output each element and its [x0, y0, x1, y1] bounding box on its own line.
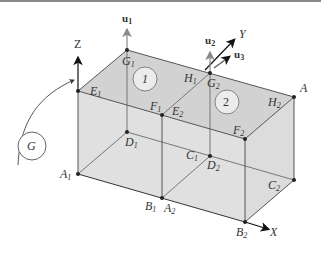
x-axis-label: X — [269, 225, 278, 239]
u1-label: u1 — [122, 12, 132, 26]
x-axis — [245, 222, 268, 229]
y-axis-label: Y — [239, 27, 247, 41]
svg-text:B2: B2 — [236, 225, 247, 240]
svg-text:A2: A2 — [163, 201, 175, 216]
svg-text:A: A — [299, 81, 308, 95]
cell-2-label: 2 — [223, 95, 229, 109]
z-axis-label: Z — [74, 37, 81, 51]
diagram-canvas: G 1 2 Z X Y u1 u2 u3 E1 G1 A1 F1 E2 — [0, 0, 321, 253]
svg-text:B1: B1 — [145, 199, 156, 214]
cell-1-label: 1 — [142, 72, 148, 86]
u2-label: u2 — [205, 34, 215, 48]
rotation-label: G — [27, 139, 36, 153]
box-diagram: G 1 2 Z X Y u1 u2 u3 E1 G1 A1 F1 E2 — [0, 0, 321, 253]
svg-text:A1: A1 — [59, 167, 71, 182]
u3-label: u3 — [234, 48, 244, 62]
